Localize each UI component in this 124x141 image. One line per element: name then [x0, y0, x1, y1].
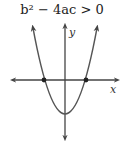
x-axis-label: x: [110, 83, 117, 96]
y-axis-label: y: [68, 26, 76, 39]
parabola-graph: y x: [0, 0, 124, 141]
root-point-right: [84, 78, 89, 83]
root-point-left: [42, 78, 47, 83]
